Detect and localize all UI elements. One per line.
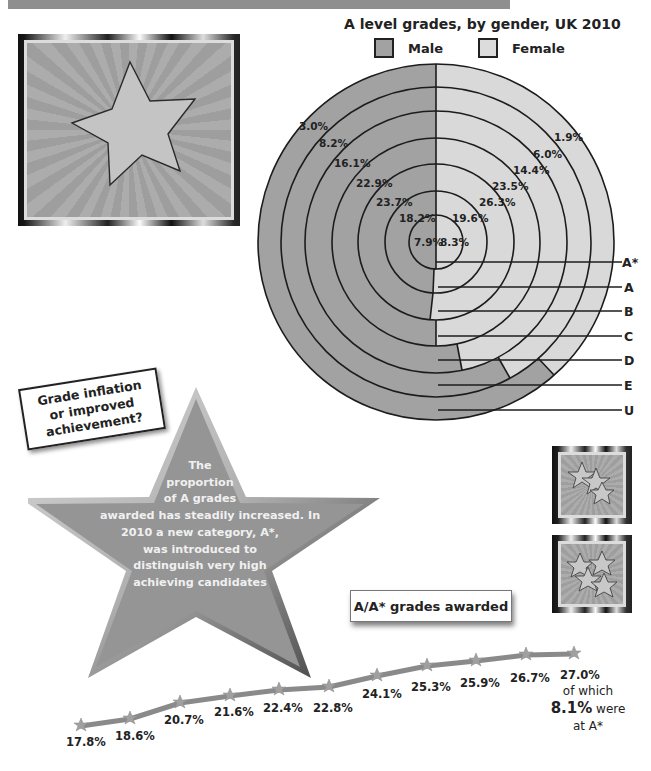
star-line: 2010 a new category, A*, [100,525,300,542]
star-line: distinguish very high [100,558,300,575]
trend-label: 25.9% [460,676,500,690]
trend-label: 27.0% [560,668,600,682]
framed-three-stars-image [558,452,626,518]
female-label-u: 1.9% [554,131,583,143]
trend-label: 22.4% [263,701,303,715]
framed-four-stars-image [558,541,626,607]
legend-label-male: Male [408,41,443,56]
male-label-a: 18.2% [399,212,435,224]
star-line: achieving candidates [100,575,300,592]
grade-label-d: D [624,353,634,368]
trend-label: 20.7% [164,713,204,727]
trend-label: 24.1% [362,687,402,701]
trend-label: 18.6% [115,729,155,743]
star-marker-icon [173,695,187,708]
female-label-b: 26.3% [479,196,515,208]
male-label-c: 22.9% [356,177,392,189]
star-marker-icon [420,658,434,671]
trend-label: 22.8% [313,701,353,715]
star-callout-text: The proportion of A grades awarded has s… [100,458,300,592]
grade-label-b: B [624,304,634,319]
legend-label-female: Female [512,41,565,56]
female-label-d: 14.4% [513,164,549,176]
legend-female: Female [478,38,565,58]
male-label-astar: 7.9% [414,236,443,248]
star-marker-icon [469,653,483,666]
star-marker-icon [519,647,533,660]
trend-chart-title: A/A* grades awarded [350,590,512,622]
stars-icon [558,541,626,607]
female-label-c: 23.5% [492,180,528,192]
note-line: at A* [548,718,628,735]
trend-label: 25.3% [411,680,451,694]
header-band [8,0,510,9]
grade-label-a: A [624,280,634,295]
female-label-astar: 8.3% [440,236,469,248]
star-line: proportion [100,475,300,492]
grade-label-c: C [624,329,633,344]
trend-label: 17.8% [66,735,106,749]
male-label-d: 16.1% [334,157,370,169]
grade-label-u: U [624,403,634,418]
polar-chart-title: A level grades, by gender, UK 2010 [344,16,644,32]
female-label-e: 6.0% [533,148,562,160]
note-line: of which [548,683,628,700]
star-line: was introduced to [100,542,300,559]
star-line: of A grades [100,491,300,508]
legend-male: Male [374,38,443,58]
legend-swatch-female [478,38,498,58]
grade-label-e: E [624,378,633,393]
note-line: 8.1% were [548,700,628,718]
male-label-b: 23.7% [376,196,412,208]
female-label-a: 19.6% [452,212,488,224]
astar-note: of which 8.1% were at A* [548,683,628,735]
star-marker-icon [123,711,137,724]
note-highlight: 8.1% [551,699,593,717]
star-marker-icon [223,688,237,701]
male-label-u: 3.0% [299,120,328,132]
male-label-e: 8.2% [319,137,348,149]
star-icon [24,40,234,220]
trend-label: 21.6% [214,705,254,719]
grade-label-astar: A* [622,255,638,270]
star-marker-icon [74,718,88,731]
star-line: awarded has steadily increased. In [100,508,300,525]
trend-label: 26.7% [510,671,550,685]
stars-icon [558,452,626,518]
legend-swatch-male [374,38,394,58]
star-marker-icon [567,646,581,659]
framed-star-image [24,40,234,220]
star-line: The [100,458,300,475]
note-were: were [596,702,625,716]
